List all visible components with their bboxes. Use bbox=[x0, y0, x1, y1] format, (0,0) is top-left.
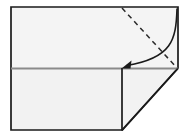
fold-diagram-svg bbox=[0, 0, 188, 137]
fold-diagram-container bbox=[0, 0, 188, 137]
